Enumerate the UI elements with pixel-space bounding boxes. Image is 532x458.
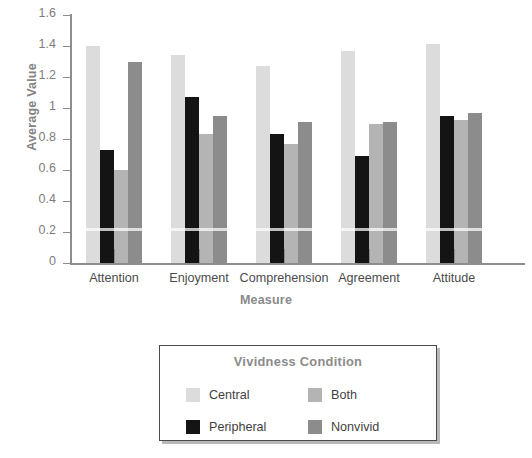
legend-item: Peripheral [186,420,308,434]
y-axis-tick-mark [63,46,70,47]
x-axis-title: Measure [0,293,532,307]
y-axis-tick-mark [63,15,70,16]
bar-group [341,15,397,263]
x-axis-tick-mark [454,249,455,263]
y-axis-tick-label: 0.2 [39,223,56,237]
bar [171,55,185,263]
legend-title: Vividness Condition [160,354,436,369]
bar-group [426,15,482,263]
legend-swatch [308,420,322,434]
y-axis-tick-label: 1 [49,99,56,113]
legend-item: Central [186,388,308,402]
y-axis-tick-mark [63,170,70,171]
bar [185,97,199,263]
x-axis-tick-mark [369,249,370,263]
chart-legend: Vividness Condition CentralBothPeriphera… [159,345,437,441]
bar [355,156,369,263]
bar [454,120,468,263]
bar-group [256,15,312,263]
scan-streak [72,230,523,231]
y-axis-tick-label: 0.8 [39,130,56,144]
legend-items: CentralBothPeripheralNonvivid [186,379,418,443]
plot-area: 00.20.40.60.811.21.41.6 [70,15,525,263]
bar [100,150,114,263]
bar [298,122,312,263]
bar [256,66,270,263]
legend-item-label: Nonvivid [331,420,379,434]
bar-chart-figure: Average Value 00.20.40.60.811.21.41.6 At… [0,0,532,458]
x-axis-tick-label: Comprehension [240,271,329,285]
legend-item-label: Peripheral [209,420,266,434]
bar [114,170,128,263]
x-axis-line [70,263,525,265]
y-axis-tick-mark [63,263,70,264]
y-axis-tick-label: 1.4 [39,37,56,51]
bar [369,124,383,264]
bar [270,134,284,263]
y-axis-tick-mark [63,201,70,202]
bar [440,116,454,263]
bar [128,62,142,264]
y-axis-tick-mark [63,139,70,140]
y-axis-tick-label: 1.2 [39,68,56,82]
y-axis-tick-mark [63,77,70,78]
bar [284,144,298,263]
y-axis-tick-label: 1.6 [39,6,56,20]
x-axis-tick-mark [199,249,200,263]
x-axis-tick-label: Attitude [433,271,476,285]
legend-item-label: Central [209,388,250,402]
x-axis-tick-label: Agreement [338,271,400,285]
x-axis-tick-mark [284,249,285,263]
legend-item-label: Both [331,388,357,402]
bar [468,113,482,263]
legend-swatch [186,420,200,434]
y-axis-tick-mark [63,108,70,109]
y-axis-tick-label: 0 [49,254,56,268]
scan-streak [72,228,523,229]
bar-group [171,15,227,263]
y-axis-title: Average Value [25,17,39,197]
y-axis-tick-mark [63,232,70,233]
bar-group [86,15,142,263]
x-axis-tick-mark [114,249,115,263]
legend-swatch [186,388,200,402]
bar [383,122,397,263]
x-axis-tick-label: Enjoyment [169,271,229,285]
legend-swatch [308,388,322,402]
bar [199,134,213,263]
y-axis-tick-label: 0.6 [39,161,56,175]
legend-item: Nonvivid [308,420,418,434]
bar [213,116,227,263]
y-axis-tick-label: 0.4 [39,192,56,206]
x-axis-tick-label: Attention [89,271,139,285]
legend-item: Both [308,388,418,402]
